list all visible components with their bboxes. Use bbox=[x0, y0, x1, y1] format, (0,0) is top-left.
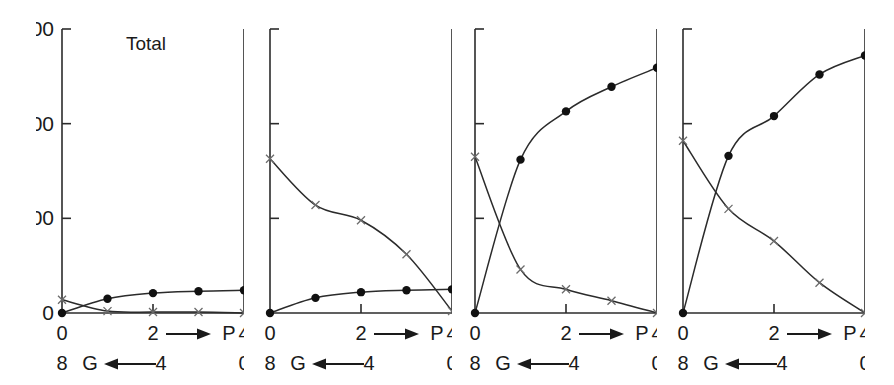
panel-svg-3: 024P8G40 bbox=[449, 0, 657, 385]
data-point-circle-p1-i0 bbox=[58, 309, 66, 317]
data-point-circle-p2-i3 bbox=[402, 286, 410, 294]
x-bottom-axis-letter-p2: G bbox=[290, 352, 306, 374]
x-bottom-axis-letter-p3: G bbox=[495, 352, 511, 374]
x-top-tick-label-0-p1: 0 bbox=[56, 322, 67, 344]
data-point-cross-p2-i2 bbox=[357, 216, 365, 224]
chart-panel-4: 024P8G40 bbox=[657, 0, 865, 385]
x-top-axis-letter-p3: P bbox=[635, 322, 648, 344]
x-bottom-tick-label-8-p4: 8 bbox=[677, 352, 688, 374]
x-bottom-tick-label-8-p3: 8 bbox=[469, 352, 480, 374]
figure-root: 0100200300Total024P8G40024P8G40024P8G400… bbox=[0, 0, 894, 385]
x-top-arrow-head-p4 bbox=[818, 329, 832, 340]
x-top-tick-label-0-p3: 0 bbox=[469, 322, 480, 344]
x-bottom-tick-label-4-p3: 4 bbox=[568, 352, 579, 374]
x-bottom-axis-letter-p1: G bbox=[82, 352, 98, 374]
x-top-axis-letter-p1: P bbox=[222, 322, 235, 344]
data-point-cross-p3-i2 bbox=[562, 285, 570, 293]
data-point-circle-p3-i1 bbox=[516, 155, 524, 163]
x-top-tick-label-2-p3: 2 bbox=[560, 322, 571, 344]
data-point-circle-p3-i3 bbox=[607, 83, 615, 91]
data-point-cross-p3-i1 bbox=[517, 265, 525, 273]
series-curve-filled-circle-p3 bbox=[475, 68, 657, 313]
x-bottom-tick-label-8-p1: 8 bbox=[56, 352, 67, 374]
y-tick-label-300: 300 bbox=[36, 17, 54, 40]
x-bottom-tick-label-4-p4: 4 bbox=[776, 352, 787, 374]
data-point-cross-p4-i1 bbox=[725, 205, 733, 213]
x-top-tick-label-2-p4: 2 bbox=[768, 322, 779, 344]
x-top-tick-label-2-p2: 2 bbox=[355, 322, 366, 344]
data-point-circle-p4-i1 bbox=[724, 152, 732, 160]
y-tick-label-200: 200 bbox=[36, 112, 54, 135]
x-bottom-tick-label-8-p2: 8 bbox=[264, 352, 275, 374]
x-top-axis-letter-p2: P bbox=[430, 322, 443, 344]
chart-panel-2: 024P8G40 bbox=[244, 0, 452, 385]
chart-panel-3: 024P8G40 bbox=[449, 0, 657, 385]
y-tick-label-0: 0 bbox=[42, 301, 54, 324]
x-bottom-arrow-head-p4 bbox=[725, 359, 739, 370]
data-point-circle-p4-i3 bbox=[815, 70, 823, 78]
y-tick-label-100: 100 bbox=[36, 206, 54, 229]
data-point-cross-p2-i3 bbox=[403, 250, 411, 258]
data-point-circle-p4-i0 bbox=[679, 309, 687, 317]
data-point-circle-p1-i2 bbox=[149, 289, 157, 297]
panel-title: Total bbox=[126, 33, 166, 54]
data-point-circle-p1-i1 bbox=[103, 295, 111, 303]
x-bottom-tick-label-0-p4: 0 bbox=[859, 352, 865, 374]
x-top-arrow-head-p2 bbox=[405, 329, 419, 340]
series-curve-cross-p4 bbox=[683, 141, 865, 313]
data-point-circle-p3-i0 bbox=[471, 309, 479, 317]
x-bottom-arrow-head-p2 bbox=[312, 359, 326, 370]
data-point-circle-p2-i2 bbox=[357, 288, 365, 296]
data-point-circle-p1-i3 bbox=[194, 287, 202, 295]
x-bottom-axis-letter-p4: G bbox=[703, 352, 719, 374]
x-top-tick-label-2-p1: 2 bbox=[147, 322, 158, 344]
x-bottom-tick-label-4-p2: 4 bbox=[363, 352, 374, 374]
chart-panel-1: 0100200300Total024P8G40 bbox=[36, 0, 244, 385]
panel-svg-4: 024P8G40 bbox=[657, 0, 865, 385]
panel-svg-2: 024P8G40 bbox=[244, 0, 452, 385]
x-top-arrow-head-p3 bbox=[610, 329, 624, 340]
data-point-circle-p2-i1 bbox=[311, 294, 319, 302]
panel-svg-1: 0100200300Total024P8G40 bbox=[36, 0, 244, 385]
x-bottom-tick-label-4-p1: 4 bbox=[155, 352, 166, 374]
data-point-cross-p4-i2 bbox=[770, 237, 778, 245]
x-top-tick-label-0-p2: 0 bbox=[264, 322, 275, 344]
x-bottom-arrow-head-p3 bbox=[517, 359, 531, 370]
data-point-circle-p4-i4 bbox=[861, 51, 865, 59]
data-point-circle-p4-i2 bbox=[770, 112, 778, 120]
data-point-circle-p3-i2 bbox=[562, 107, 570, 115]
x-top-tick-label-4-p4: 4 bbox=[859, 322, 865, 344]
x-top-tick-label-0-p4: 0 bbox=[677, 322, 688, 344]
x-bottom-arrow-head-p1 bbox=[104, 359, 118, 370]
data-point-circle-p2-i0 bbox=[266, 309, 274, 317]
x-top-arrow-head-p1 bbox=[197, 329, 211, 340]
data-point-cross-p2-i1 bbox=[312, 201, 320, 209]
data-point-cross-p4-i3 bbox=[816, 279, 824, 287]
x-top-axis-letter-p4: P bbox=[843, 322, 856, 344]
